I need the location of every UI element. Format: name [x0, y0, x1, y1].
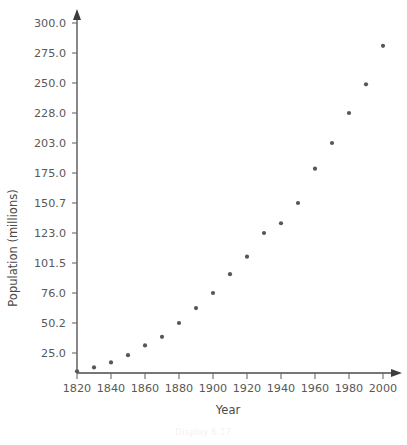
y-tick-label: 203.0 — [34, 137, 66, 150]
data-point — [75, 369, 79, 373]
y-tick-label: 150.7 — [34, 197, 66, 210]
y-axis-label: Population (millions) — [6, 189, 20, 306]
x-tick-label: 1960 — [301, 382, 329, 395]
data-point — [330, 141, 334, 145]
data-point — [228, 272, 232, 276]
figure-caption: Display 6.17 — [0, 428, 407, 437]
scatter-plot: Population (millions) Year 25.050.276.01… — [0, 0, 407, 445]
data-point — [347, 111, 351, 115]
x-tick-label: 1880 — [165, 382, 193, 395]
data-point — [194, 306, 198, 310]
x-tick-label: 1860 — [131, 382, 159, 395]
y-tick-label: 300.0 — [34, 17, 66, 30]
y-tick-label: 25.0 — [41, 347, 66, 360]
data-point — [143, 343, 147, 347]
x-tick-label: 1980 — [335, 382, 363, 395]
data-point — [296, 201, 300, 205]
y-tick-label: 50.2 — [41, 317, 66, 330]
x-tick-label: 1840 — [97, 382, 125, 395]
data-point — [160, 335, 164, 339]
x-axis-label: Year — [215, 403, 241, 417]
x-tick-label: 1920 — [233, 382, 261, 395]
x-axis-ticks: 1820184018601880190019201940196019802000 — [63, 373, 397, 395]
data-points — [75, 44, 385, 374]
y-tick-label: 123.0 — [34, 227, 66, 240]
data-point — [109, 360, 113, 364]
data-point — [313, 167, 317, 171]
y-tick-label: 175.0 — [34, 167, 66, 180]
data-point — [381, 44, 385, 48]
y-tick-label: 76.0 — [41, 287, 66, 300]
data-point — [177, 321, 181, 325]
data-point — [279, 221, 283, 225]
x-axis — [77, 369, 402, 377]
x-tick-label: 1820 — [63, 382, 91, 395]
data-point — [262, 231, 266, 235]
x-tick-label: 1940 — [267, 382, 295, 395]
x-tick-label: 1900 — [199, 382, 227, 395]
figure-container: Population (millions) Year 25.050.276.01… — [0, 0, 407, 445]
data-point — [92, 365, 96, 369]
data-point — [126, 353, 130, 357]
data-point — [364, 82, 368, 86]
y-tick-label: 101.5 — [34, 257, 66, 270]
data-point — [211, 291, 215, 295]
y-axis-ticks: 25.050.276.0101.5123.0150.7175.0203.0228… — [34, 17, 77, 360]
y-tick-label: 228.0 — [34, 107, 66, 120]
y-tick-label: 275.0 — [34, 47, 66, 60]
x-tick-label: 2000 — [369, 382, 397, 395]
y-axis — [73, 9, 81, 373]
y-tick-label: 250.0 — [34, 77, 66, 90]
data-point — [245, 255, 249, 259]
